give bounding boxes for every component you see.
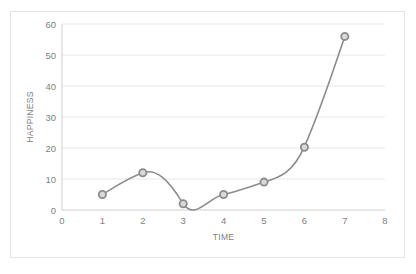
x-tick-label-1: 1	[100, 215, 105, 226]
x-tick-label-2: 2	[140, 215, 145, 226]
data-point-markers	[99, 33, 349, 208]
x-tick-label-7: 7	[342, 215, 347, 226]
x-tick-labels: 0 1 2 3 4 5 6 7 8	[59, 215, 387, 226]
x-tick-label-5: 5	[261, 215, 266, 226]
data-point-6	[301, 144, 308, 151]
data-point-1	[99, 191, 106, 198]
data-point-2	[139, 169, 146, 176]
gridlines	[62, 24, 385, 179]
data-point-3	[180, 200, 187, 207]
x-axis-title: TIME	[213, 232, 235, 242]
x-tick-label-0: 0	[59, 215, 64, 226]
y-tick-label-10: 10	[45, 174, 56, 185]
chart-figure: 0 10 20 30 40 50 60 0 1 2 3 4 5 6 7 8	[0, 0, 416, 274]
data-point-4	[220, 191, 227, 198]
x-tick-label-4: 4	[221, 215, 226, 226]
data-point-5	[260, 179, 267, 186]
y-tick-label-0: 0	[51, 205, 56, 216]
y-tick-label-40: 40	[45, 81, 56, 92]
data-point-7	[341, 33, 348, 40]
x-tick-label-8: 8	[382, 215, 387, 226]
y-tick-label-50: 50	[45, 50, 56, 61]
data-line-happiness	[102, 36, 344, 210]
x-tick-label-3: 3	[181, 215, 186, 226]
y-tick-label-20: 20	[45, 143, 56, 154]
x-tick-label-6: 6	[302, 215, 307, 226]
line-chart: 0 10 20 30 40 50 60 0 1 2 3 4 5 6 7 8	[0, 0, 416, 274]
y-tick-label-30: 30	[45, 112, 56, 123]
y-tick-labels: 0 10 20 30 40 50 60	[45, 19, 56, 216]
y-axis-title: HAPPINESS	[25, 91, 35, 142]
y-tick-label-60: 60	[45, 19, 56, 30]
